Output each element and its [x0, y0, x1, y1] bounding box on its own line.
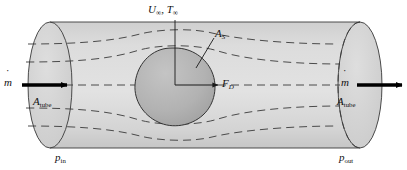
- label-pressure-outlet: pout: [339, 152, 353, 165]
- label-mass-flow-in: m: [4, 77, 12, 88]
- label-area-tube-outlet: Atube: [337, 96, 355, 109]
- label-drag-force: FD: [222, 78, 234, 91]
- label-pressure-inlet: pin: [55, 152, 66, 165]
- label-area-tube-inlet: Atube: [33, 96, 51, 109]
- label-mass-flow-out: m: [341, 77, 349, 88]
- label-freestream-conditions: U∞, T∞: [148, 4, 178, 17]
- label-surface-area: AS: [215, 28, 225, 41]
